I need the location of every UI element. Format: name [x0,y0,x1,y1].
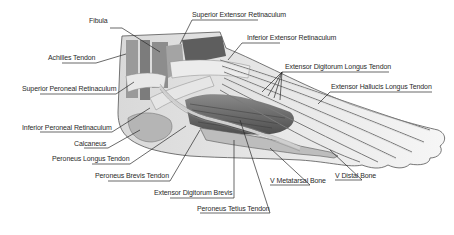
label-peroneus-longus-tendon: Peroneus Longus Tendon [52,155,129,163]
label-achilles-tendon: Achilles Tendon [48,54,95,62]
label-inferior-extensor-retinaculum: Inferior Extensor Retinaculum [247,34,336,42]
foot-illustration [0,0,454,235]
label-v-distal-bone: V Distal Bone [335,172,376,180]
label-v-metatarsal-bone: V Metatarsal Bone [270,177,326,185]
foot-anatomy-diagram: Fibula Superior Extensor Retinaculum Inf… [0,0,454,235]
label-fibula: Fibula [89,17,107,25]
label-inferior-peroneal-retinaculum: Inferior Peroneal Retinaculum [22,124,112,132]
label-calcaneus: Calcaneus [74,140,106,148]
label-peroneus-tetius-tendon: Peroneus Tetius Tendon [197,205,270,213]
label-superior-extensor-retinaculum: Superior Extensor Retinaculum [192,11,286,19]
label-superior-peroneal-retinaculum: Superior Peroneal Retinaculum [22,85,116,93]
label-extensor-hallucis-longus-tendon: Extensor Hallucis Longus Tendon [331,83,432,91]
label-extensor-digitorum-longus-tendon: Extensor Digitorum Longus Tendon [285,63,391,71]
label-peroneus-brevis-tendon: Peroneus Brevis Tendon [95,172,169,180]
label-extensor-digitorum-brevis: Extensor Digitorum Brevis [154,189,232,197]
